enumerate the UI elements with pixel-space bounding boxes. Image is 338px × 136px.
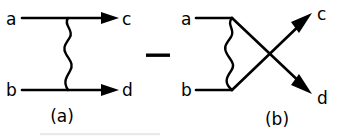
label-a-in-lower: b xyxy=(6,80,17,100)
minus-sign-icon xyxy=(146,54,170,57)
arrowhead-d-a xyxy=(101,84,119,96)
caption-b: (b) xyxy=(265,109,289,129)
wavy-boson-line-b xyxy=(225,18,233,90)
figure-container: a b c d (a) a b xyxy=(0,0,338,136)
diagram-b: a b c d (b) xyxy=(181,4,328,129)
label-b-in-upper: a xyxy=(181,9,191,29)
label-b-out-lower: d xyxy=(317,88,328,108)
minus-operator xyxy=(146,54,170,57)
label-a-out-upper: c xyxy=(122,9,131,29)
diagram-a: a b c d (a) xyxy=(6,9,133,126)
label-b-in-lower: b xyxy=(181,80,192,100)
fermion-line-b-to-c xyxy=(232,20,305,90)
arrowhead-c-a xyxy=(101,12,119,24)
wavy-boson-line-a xyxy=(64,18,71,90)
fermion-line-a-to-d xyxy=(232,18,305,87)
caption-a: (a) xyxy=(50,106,74,126)
label-a-out-lower: d xyxy=(122,80,133,100)
label-a-in-upper: a xyxy=(6,9,16,29)
feynman-diagram-figure: a b c d (a) a b xyxy=(0,0,338,136)
scan-smudge xyxy=(40,133,160,135)
label-b-out-upper: c xyxy=(317,4,326,24)
